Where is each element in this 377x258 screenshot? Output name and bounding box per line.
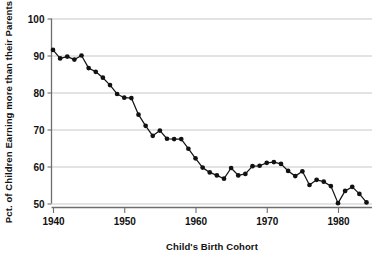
data-point-1968 (250, 164, 255, 169)
data-point-1954 (150, 133, 155, 138)
data-point-1963 (215, 173, 220, 178)
y-tick-group: 5060708090100 (28, 14, 52, 210)
x-tick-label-1950: 1950 (114, 216, 137, 227)
data-series-group (51, 48, 369, 206)
y-tick-label-100: 100 (28, 14, 45, 25)
y-tick-label-60: 60 (33, 162, 45, 173)
series-line (53, 50, 367, 203)
data-point-1944 (79, 53, 84, 58)
data-point-1967 (243, 172, 248, 177)
data-point-1953 (143, 123, 148, 128)
data-point-1947 (101, 75, 106, 80)
data-point-1981 (343, 189, 348, 194)
x-tick-label-1970: 1970 (256, 216, 279, 227)
y-tick-label-50: 50 (33, 199, 45, 210)
data-point-1949 (115, 92, 120, 97)
data-point-1983 (357, 192, 362, 197)
data-point-1965 (229, 166, 234, 171)
x-tick-group: 19401950196019701980 (42, 208, 350, 227)
data-point-1941 (58, 56, 63, 61)
data-point-1972 (279, 162, 284, 167)
data-point-1961 (200, 165, 205, 170)
data-point-1969 (257, 163, 262, 168)
data-point-1940 (51, 48, 56, 53)
gridlines-group (52, 19, 373, 204)
data-point-1970 (264, 160, 269, 165)
data-point-1958 (179, 137, 184, 142)
x-tick-label-1980: 1980 (327, 216, 350, 227)
data-point-1946 (93, 69, 98, 74)
y-tick-label-80: 80 (33, 88, 45, 99)
data-point-1975 (300, 169, 305, 174)
data-point-1952 (136, 112, 141, 117)
y-tick-label-70: 70 (33, 125, 45, 136)
data-point-1951 (129, 96, 134, 101)
data-point-1979 (329, 184, 334, 189)
data-point-1945 (86, 66, 91, 71)
data-point-1971 (272, 160, 277, 165)
chart-figure: 5060708090100 19401950196019701980 Pct. … (0, 0, 377, 258)
data-point-1948 (108, 83, 113, 88)
data-point-1959 (186, 146, 191, 151)
data-point-1966 (236, 173, 241, 178)
data-point-1964 (222, 176, 227, 181)
data-point-1955 (158, 128, 163, 133)
data-point-1974 (293, 174, 298, 179)
data-point-1977 (314, 177, 319, 182)
x-axis-title: Child's Birth Cohort (166, 241, 259, 252)
data-point-1962 (207, 170, 212, 175)
data-point-1976 (307, 183, 312, 188)
data-point-1978 (321, 179, 326, 184)
x-tick-label-1960: 1960 (185, 216, 208, 227)
x-tick-label-1940: 1940 (42, 216, 65, 227)
data-point-1950 (122, 95, 127, 100)
data-point-1973 (286, 169, 291, 174)
data-point-1943 (72, 57, 77, 62)
line-chart: 5060708090100 19401950196019701980 Pct. … (0, 0, 377, 258)
data-point-1980 (336, 201, 341, 206)
data-point-1942 (65, 54, 70, 59)
data-point-1957 (172, 137, 177, 142)
data-point-1960 (193, 156, 198, 161)
y-axis-title: Pct. of Children Earning more than their… (3, 1, 14, 223)
data-point-1956 (165, 136, 170, 141)
y-tick-label-90: 90 (33, 51, 45, 62)
data-point-1982 (350, 185, 355, 190)
data-point-1984 (364, 200, 369, 205)
axes-group (52, 19, 373, 208)
